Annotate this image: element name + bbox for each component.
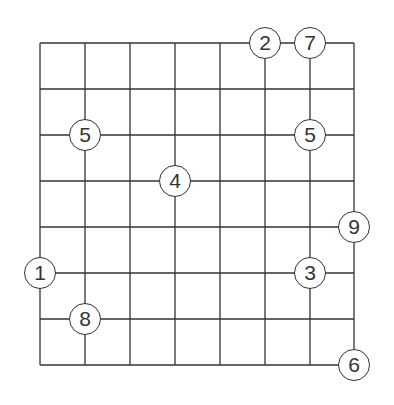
clue-value: 4 <box>169 169 181 193</box>
clue-value: 5 <box>304 123 316 147</box>
clue-circle[interactable]: 8 <box>69 303 101 335</box>
puzzle-grid <box>0 0 394 405</box>
clue-circle[interactable]: 2 <box>249 27 281 59</box>
clue-value: 7 <box>304 31 316 55</box>
clue-circle[interactable]: 5 <box>294 119 326 151</box>
clue-circle[interactable]: 6 <box>338 349 370 381</box>
clue-circle[interactable]: 4 <box>159 165 191 197</box>
clue-value: 2 <box>259 31 271 55</box>
clue-value: 5 <box>79 123 91 147</box>
clue-value: 9 <box>348 215 360 239</box>
clue-circle[interactable]: 9 <box>338 211 370 243</box>
clue-value: 6 <box>348 353 360 377</box>
clue-circle[interactable]: 3 <box>294 257 326 289</box>
clue-circle[interactable]: 5 <box>69 119 101 151</box>
clue-value: 3 <box>304 261 316 285</box>
clue-circle[interactable]: 1 <box>24 257 56 289</box>
clue-circle[interactable]: 7 <box>294 27 326 59</box>
clue-value: 1 <box>34 261 46 285</box>
clue-value: 8 <box>79 307 91 331</box>
